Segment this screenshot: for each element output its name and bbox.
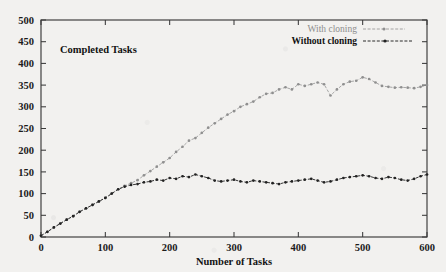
data-point <box>149 180 152 183</box>
y-axis-tick-labels: 050100150200250300350400450500 <box>18 15 34 243</box>
data-point <box>387 176 390 179</box>
data-point <box>303 85 306 88</box>
series-markers-with-cloning <box>40 76 429 237</box>
data-point <box>233 178 236 181</box>
y-tick-label: 500 <box>18 15 34 26</box>
data-point <box>213 122 216 125</box>
y-tick-label: 50 <box>24 210 35 221</box>
series-line-without-cloning <box>41 175 427 236</box>
data-point <box>310 177 313 180</box>
data-point <box>136 183 139 186</box>
data-point <box>162 161 165 164</box>
data-point <box>110 192 113 195</box>
data-point <box>361 174 364 177</box>
legend-label-with-cloning: With cloning <box>308 24 358 34</box>
y-tick-label: 250 <box>18 123 34 134</box>
data-point <box>406 179 409 182</box>
data-point <box>46 230 49 233</box>
y-tick-label: 350 <box>18 80 34 91</box>
data-point <box>175 177 178 180</box>
data-point <box>291 180 294 183</box>
data-point <box>271 92 274 95</box>
data-point <box>40 234 43 237</box>
data-point <box>316 179 319 182</box>
series-line-with-cloning <box>41 77 427 235</box>
legend-label-without-cloning: Without cloning <box>291 36 357 46</box>
data-point <box>65 218 68 221</box>
data-point <box>136 179 139 182</box>
data-point <box>413 177 416 180</box>
chart-legend: With cloning Without cloning <box>291 24 412 46</box>
data-point <box>59 222 62 225</box>
data-point <box>143 174 146 177</box>
data-point <box>297 179 300 182</box>
data-point <box>252 100 255 103</box>
data-point <box>329 180 332 183</box>
x-axis-title: Number of Tasks <box>196 256 272 267</box>
data-point <box>291 88 294 91</box>
data-point <box>252 179 255 182</box>
x-tick-label: 0 <box>38 242 43 253</box>
data-point <box>426 173 429 176</box>
data-point <box>200 175 203 178</box>
data-point <box>117 188 120 191</box>
data-point <box>348 80 351 83</box>
data-point <box>368 175 371 178</box>
data-point <box>393 177 396 180</box>
data-point <box>168 157 171 160</box>
data-point <box>78 210 81 213</box>
data-point <box>175 151 178 154</box>
data-point <box>239 105 242 108</box>
data-point <box>123 185 126 188</box>
data-point <box>207 126 210 129</box>
data-point <box>226 179 229 182</box>
data-point <box>393 86 396 89</box>
y-tick-label: 100 <box>18 188 34 199</box>
data-point <box>406 86 409 89</box>
data-point <box>323 83 326 86</box>
data-point <box>426 84 429 87</box>
data-point <box>381 85 384 88</box>
data-point <box>413 87 416 90</box>
data-point <box>348 176 351 179</box>
y-tick-label: 400 <box>18 58 34 69</box>
x-tick-label: 100 <box>97 242 113 253</box>
data-point <box>265 181 268 184</box>
data-point <box>194 173 197 176</box>
data-point <box>258 96 261 99</box>
data-point <box>155 178 158 181</box>
data-point <box>246 103 249 106</box>
data-point <box>194 137 197 140</box>
data-point <box>130 184 133 187</box>
data-point <box>316 81 319 84</box>
data-point <box>374 81 377 84</box>
data-point <box>368 78 371 81</box>
x-tick-label: 400 <box>290 242 306 253</box>
data-point <box>278 183 281 186</box>
data-point <box>419 175 422 178</box>
data-point <box>310 83 313 86</box>
plot-annotation-completed-tasks: Completed Tasks <box>60 44 137 55</box>
data-point <box>91 204 94 207</box>
series-markers-without-cloning <box>40 173 429 237</box>
data-point <box>188 176 191 179</box>
data-point <box>342 177 345 180</box>
data-point <box>258 180 261 183</box>
data-point <box>284 181 287 184</box>
chart-figure: 050100150200250300350400450500 010020030… <box>0 0 446 272</box>
data-point <box>323 181 326 184</box>
y-tick-label: 450 <box>18 36 34 47</box>
data-point <box>271 182 274 185</box>
data-point <box>336 88 339 91</box>
data-point <box>72 215 75 218</box>
x-tick-label: 200 <box>162 242 178 253</box>
data-point <box>207 177 210 180</box>
data-point <box>355 79 358 82</box>
data-point <box>220 180 223 183</box>
data-point <box>361 76 364 79</box>
data-point <box>98 200 101 203</box>
data-point <box>342 83 345 86</box>
data-point <box>162 179 165 182</box>
data-point <box>200 131 203 134</box>
x-axis-tick-labels: 0100200300400500600 <box>38 242 435 253</box>
